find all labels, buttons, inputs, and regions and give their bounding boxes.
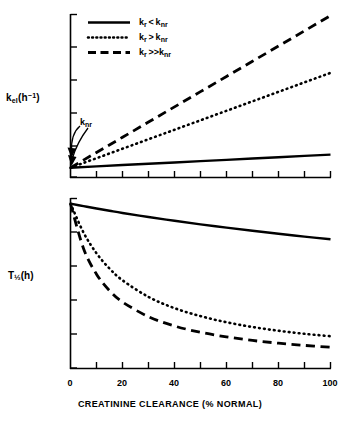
series-line-solid-top bbox=[71, 155, 331, 168]
series-line-dotted-top bbox=[71, 73, 331, 168]
bottom-x-axis-ticks bbox=[97, 362, 331, 369]
legend-label-1: kr > knr bbox=[139, 32, 168, 43]
x-tick-label-4: 80 bbox=[263, 378, 293, 388]
x-axis-title: CREATININE CLEARANCE (% NORMAL) bbox=[0, 399, 340, 409]
x-tick-label-2: 40 bbox=[159, 378, 189, 388]
series-line-solid-bottom bbox=[71, 204, 331, 240]
plot-canvas bbox=[0, 0, 340, 422]
legend-label-0: kr < knr bbox=[139, 17, 168, 28]
legend-sample-lines bbox=[88, 23, 130, 53]
x-tick-label-0: 0 bbox=[55, 378, 85, 388]
legend-label-2: kr >>knr bbox=[139, 47, 171, 58]
knr-annotation-label: knr bbox=[80, 117, 92, 128]
x-tick-label-1: 20 bbox=[107, 378, 137, 388]
x-tick-label-3: 60 bbox=[211, 378, 241, 388]
bottom-panel-series bbox=[71, 204, 331, 348]
top-x-axis-ticks bbox=[97, 171, 331, 178]
x-tick-label-5: 100 bbox=[315, 378, 340, 388]
top-panel-y-axis-title: kel(h−1) bbox=[6, 92, 40, 104]
bottom-panel-y-axis-title: T½(h) bbox=[8, 270, 34, 282]
figure-container: kr < knr kr > knr kr >>knr knr kel(h−1) … bbox=[0, 0, 340, 422]
